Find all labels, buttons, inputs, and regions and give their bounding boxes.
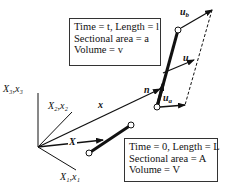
x1-axis-label: X₁,x₁ — [60, 172, 80, 182]
reference-config-line1: Time = 0, Length = L — [129, 141, 213, 153]
reference-config-line2: Sectional area = A — [129, 153, 213, 165]
reference-bar-end-a — [86, 150, 92, 156]
u-vector-label: u — [183, 53, 189, 63]
current-config-line3: Volume = v — [74, 44, 156, 56]
ua-vector-label: ua — [163, 93, 172, 105]
current-config-box: Time = t, Length = l Sectional area = a … — [69, 18, 161, 66]
current-bar-end-b — [175, 27, 181, 33]
n-vector-label: n — [144, 85, 150, 95]
reference-config-box: Time = 0, Length = L Sectional area = A … — [124, 138, 218, 182]
reference-bar-end-b — [128, 122, 134, 128]
x-vector-label: x — [98, 100, 103, 110]
ub-vector-label: ub — [180, 7, 189, 19]
current-config-line1: Time = t, Length = l — [74, 21, 156, 33]
reference-config-line3: Volume = V — [129, 164, 213, 176]
x1-axis — [38, 147, 76, 170]
current-bar-end-a — [154, 104, 160, 110]
x2-axis-label: X₂,x₂ — [48, 101, 68, 111]
ua-vector — [160, 105, 185, 107]
deformation-diagram: X₃,x₃ X₂,x₂ X₁,x₁ x X n u ua ub Time = t… — [0, 0, 233, 189]
x3-axis-label: X₃,x₃ — [3, 84, 23, 94]
current-config-line2: Sectional area = a — [74, 33, 156, 45]
dashed-guide — [185, 10, 212, 105]
x2-axis — [38, 112, 72, 147]
X-vector-label: X — [68, 137, 77, 147]
